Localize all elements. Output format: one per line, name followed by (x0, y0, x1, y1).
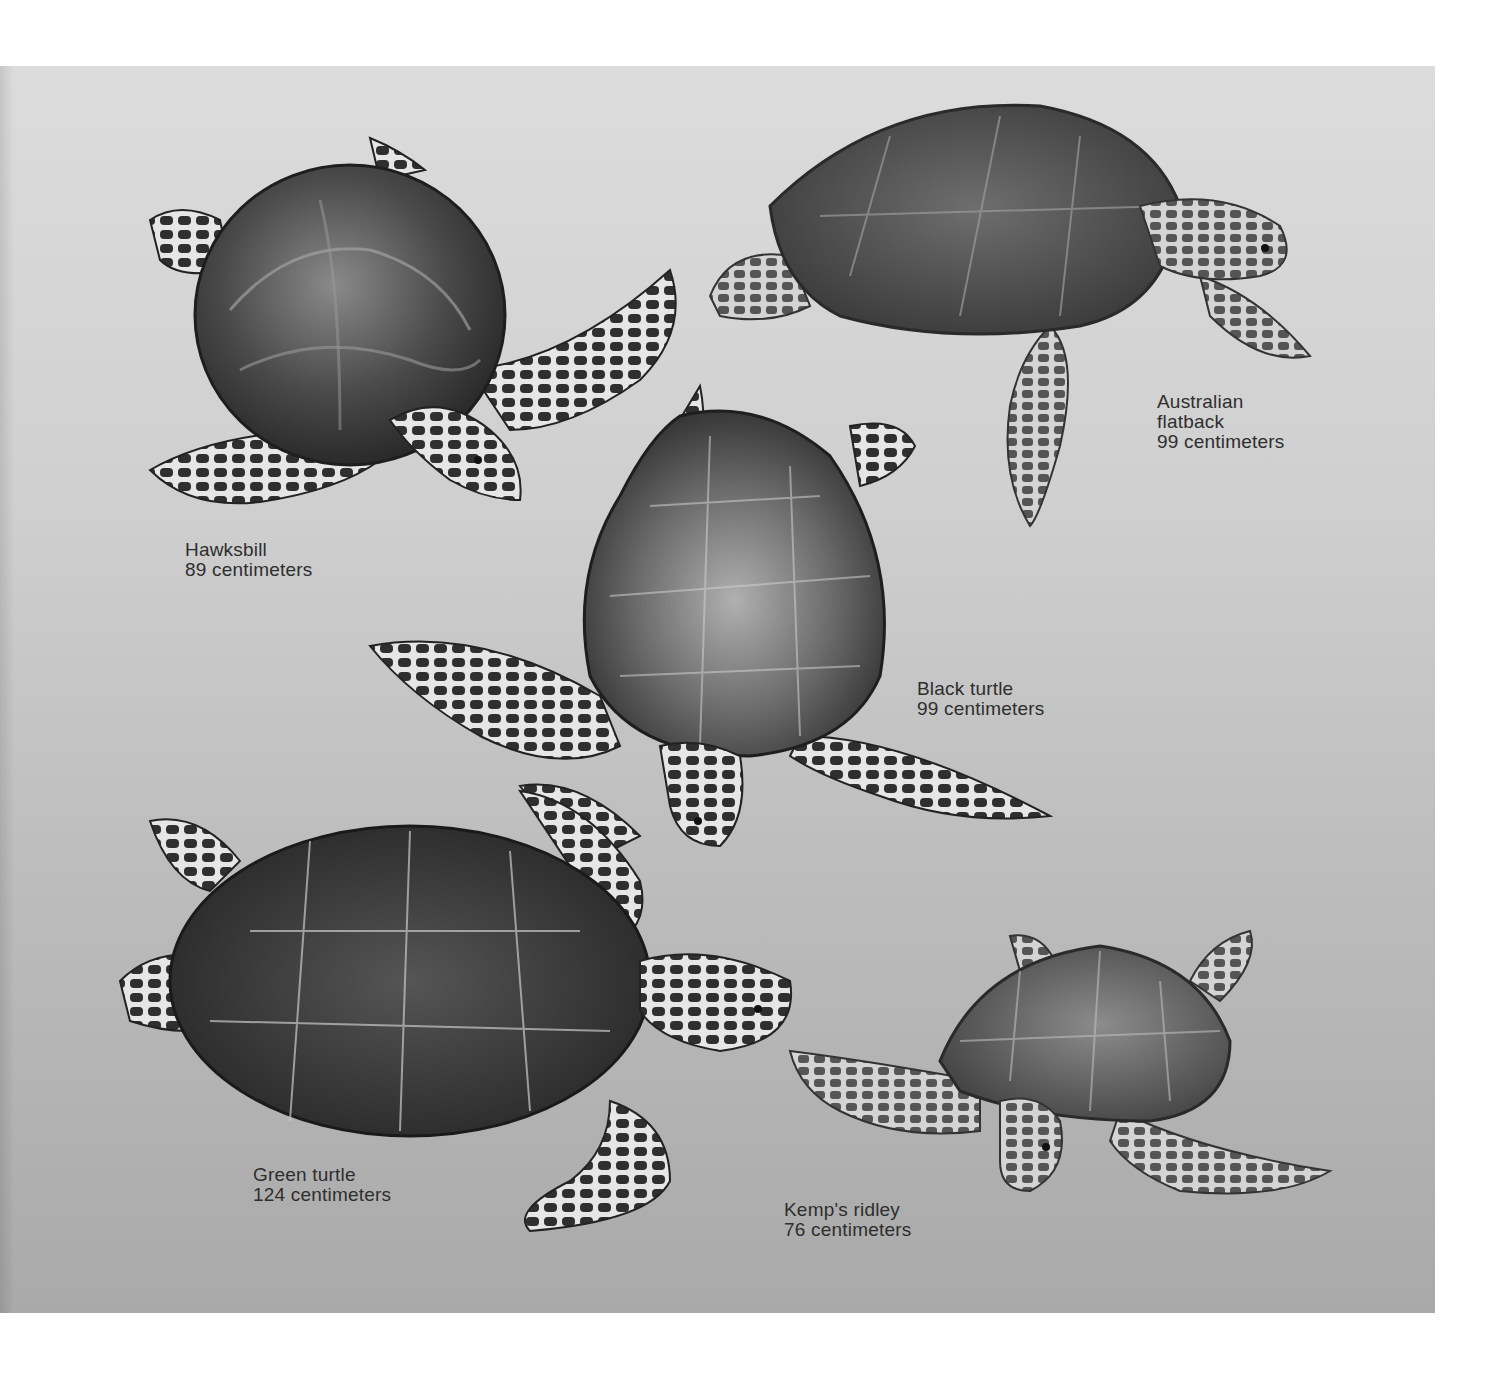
label-kemps-ridley: Kemp's ridley 76 centimeters (784, 1200, 911, 1240)
species-name: Kemp's ridley (784, 1200, 911, 1220)
species-name: Green turtle (253, 1165, 391, 1185)
species-name: Hawksbill (185, 540, 312, 560)
species-size: 99 centimeters (1157, 432, 1284, 452)
label-green-turtle: Green turtle 124 centimeters (253, 1165, 391, 1205)
species-size: 89 centimeters (185, 560, 312, 580)
panel-shadow-edge (0, 66, 14, 1313)
species-size: 124 centimeters (253, 1185, 391, 1205)
species-name-line2: flatback (1157, 412, 1284, 432)
species-name-line1: Australian (1157, 392, 1284, 412)
species-name: Black turtle (917, 679, 1044, 699)
label-australian-flatback: Australian flatback 99 centimeters (1157, 392, 1284, 452)
species-size: 99 centimeters (917, 699, 1044, 719)
kemps-ridley-turtle-illustration (780, 921, 1340, 1211)
label-black-turtle: Black turtle 99 centimeters (917, 679, 1044, 719)
illustration-panel: Hawksbill 89 centimeters Australian flat… (0, 66, 1435, 1313)
green-turtle-illustration (110, 781, 810, 1241)
label-hawksbill: Hawksbill 89 centimeters (185, 540, 312, 580)
species-size: 76 centimeters (784, 1220, 911, 1240)
